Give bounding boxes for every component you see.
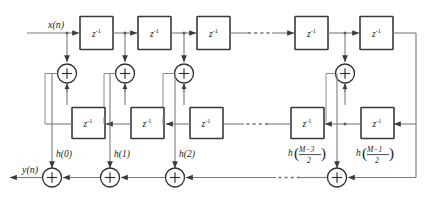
top-delay-block-5: z-1 (360, 17, 393, 50)
fir-filter-diagram: z-1 z-1 z-1 z-1 z-1 (0, 0, 430, 199)
coeff-2-text: h(2) (179, 149, 195, 160)
coefficient-label-h2: h(2) (179, 149, 195, 160)
output-label: y(n) (21, 164, 39, 176)
upper-adder-1 (58, 64, 77, 83)
bottom-delay-block-3: z-1 (190, 108, 223, 139)
coefficient-label-h1: h(1) (114, 149, 130, 160)
output-label-text: y(n) (21, 164, 39, 176)
lower-adder-2 (101, 168, 120, 187)
bottom-delay-block-4: z-1 (291, 108, 324, 139)
coeff-m3-fn: h (288, 148, 293, 158)
upper-adder-3 (175, 64, 194, 83)
input-label: x(n) (47, 19, 65, 31)
top-delay-block-3: z-1 (197, 17, 230, 50)
lower-adder-1 (43, 168, 62, 187)
coeff-m1-numerator: M−1 (366, 145, 382, 154)
top-delay-block-1: z-1 (80, 17, 113, 50)
coeff-m1-denominator: 2 (375, 156, 379, 165)
lower-adder-4 (328, 168, 347, 187)
coeff-1-text: h(1) (114, 149, 130, 160)
coeff-0-text: h(0) (56, 149, 72, 160)
coeff-m1-close-paren: ) (389, 145, 394, 162)
bottom-delay-block-2: z-1 (131, 108, 164, 139)
upper-adder-2 (116, 64, 135, 83)
upper-adder-outputs (67, 83, 345, 105)
coeff-m3-denominator: 2 (307, 156, 311, 165)
bottom-delay-block-1: z-1 (72, 108, 105, 139)
top-delay-block-4: z-1 (295, 17, 328, 50)
coefficient-label-h-m3: h ( M−3 2 ) (288, 145, 326, 165)
top-delay-block-2: z-1 (138, 17, 171, 50)
coeff-m3-close-paren: ) (321, 145, 326, 162)
upper-adder-4 (336, 64, 355, 83)
bottom-delay-block-5: z-1 (361, 108, 394, 139)
coefficient-label-h0: h(0) (56, 149, 72, 160)
signal-flow-graph: z-1 z-1 z-1 z-1 z-1 (0, 0, 430, 199)
coeff-m1-fn: h (356, 148, 361, 158)
coefficient-label-h-m1: h ( M−1 2 ) (356, 145, 394, 165)
lower-adder-3 (166, 168, 185, 187)
input-label-text: x(n) (47, 19, 65, 31)
coeff-m3-numerator: M−3 (298, 145, 314, 154)
